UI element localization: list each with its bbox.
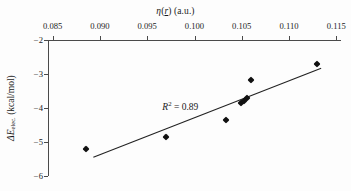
r-squared-annotation: R2 = 0.89 bbox=[162, 100, 198, 111]
y-tick-label: −4 bbox=[34, 103, 43, 113]
x-tick-label: 0.095 bbox=[138, 21, 157, 31]
plot-area: −2−3−4−5−6 R2 = 0.89 bbox=[48, 40, 341, 176]
y-tick-label: −2 bbox=[34, 35, 43, 45]
x-tick-label: 0.115 bbox=[327, 21, 346, 31]
x-tick-label: 0.100 bbox=[185, 21, 204, 31]
y-tick-label: −5 bbox=[34, 137, 43, 147]
y-axis-title: ΔEelec. (kcal/mol) bbox=[4, 40, 18, 176]
y-axis-title-subscript: elec. bbox=[9, 117, 16, 129]
y-tick-mark bbox=[44, 176, 48, 177]
x-tick-label: 0.090 bbox=[90, 21, 109, 31]
chart-figure: η(r) (a.u.) 0.0850.0900.0950.1000.1050.1… bbox=[0, 0, 351, 191]
y-tick-label: −3 bbox=[34, 69, 43, 79]
y-axis-title-units: (kcal/mol) bbox=[6, 75, 16, 117]
r-squared-value: = 0.89 bbox=[172, 101, 199, 111]
x-tick-label: 0.085 bbox=[43, 21, 62, 31]
x-axis-title-units: (a.u.) bbox=[172, 6, 195, 16]
x-axis-title: η(r) (a.u.) bbox=[0, 6, 351, 16]
y-tick-label: −6 bbox=[34, 171, 43, 181]
x-tick-label: 0.110 bbox=[280, 21, 299, 31]
y-axis-title-delta-e: ΔE bbox=[6, 129, 16, 140]
x-tick-label: 0.105 bbox=[232, 21, 251, 31]
x-axis-tick-labels: 0.0850.0900.0950.1000.1050.1100.115 bbox=[0, 21, 351, 34]
